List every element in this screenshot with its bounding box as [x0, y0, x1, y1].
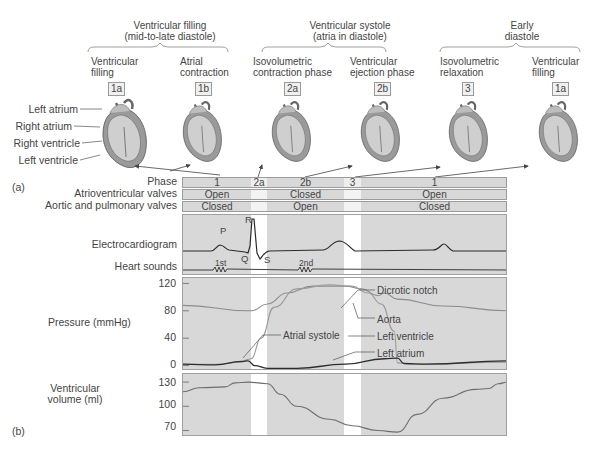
volume-chart — [183, 374, 507, 436]
phase-title-line: filling — [532, 67, 579, 78]
phase-title-line: contraction — [180, 67, 229, 78]
av-valves-bar: Open Closed Open — [182, 189, 507, 200]
phase-code-box: 3 — [462, 82, 474, 96]
heart-3 — [449, 102, 487, 161]
phase-title-2b: Ventricular ejection phase — [350, 56, 415, 78]
leader-left-ventricle — [80, 155, 100, 160]
av-valves-cell: Open — [361, 190, 508, 199]
phase-title-line: relaxation — [440, 67, 499, 78]
phase-bar: 1 2a 2b 3 1 — [182, 177, 507, 188]
phase-title-1b: Atrial contraction — [180, 56, 229, 78]
band-3 — [344, 278, 361, 370]
phase-title-2a: Isovolumetric contraction phase — [253, 56, 332, 78]
heart-sounds-label: Heart sounds — [0, 261, 177, 272]
part-label-b: (b) — [12, 426, 25, 437]
pressure-tick-label: 80 — [150, 305, 176, 316]
row-label-semilunar-valves: Aortic and pulmonary valves — [0, 200, 177, 211]
ecg-svg — [183, 215, 507, 275]
annotation-aorta: Aorta — [377, 314, 401, 325]
bracket-early-diastole — [440, 43, 580, 52]
phase-title-line: Ventricular — [532, 56, 579, 67]
volume-tick-label: 130 — [150, 377, 176, 388]
arrow-to-heart-1a — [135, 166, 220, 175]
pressure-tick-label: 120 — [150, 278, 176, 289]
heart-sound-second: 2nd — [299, 258, 313, 269]
ecg-wave-r: R — [245, 214, 252, 225]
phase-code-box: 2b — [374, 82, 391, 96]
phase-title-line: Isovolumetric — [253, 56, 332, 67]
arrow-to-heart-1a-end — [435, 166, 528, 177]
phase-title-line: Ventricular — [350, 56, 415, 67]
pressure-chart — [183, 278, 507, 370]
phase-title-line: Ventricular — [91, 56, 138, 67]
av-valves-cell: Closed — [267, 190, 344, 199]
annotation-atrial-systole: Atrial systole — [283, 330, 340, 341]
phase-code-box: 2a — [284, 82, 301, 96]
phase-title-1a-end: Ventricular filling — [532, 56, 579, 78]
phase-title-line: contraction phase — [253, 67, 332, 78]
band-3 — [344, 215, 361, 275]
group-brackets — [0, 0, 592, 60]
band-2a — [251, 190, 267, 199]
bracket-ventricular-filling — [88, 43, 228, 52]
leader-right-ventricle — [82, 141, 102, 143]
phase-cell: 2a — [251, 178, 267, 187]
phase-cell: 1 — [183, 178, 251, 187]
phase-title-line: Atrial — [180, 56, 229, 67]
phase-cell: 1 — [361, 178, 508, 187]
phase-title-1a: Ventricular filling — [91, 56, 138, 78]
pressure-panel: Atrial systole Dicrotic notch Aorta Left… — [182, 277, 507, 370]
phase-cell: 3 — [344, 178, 361, 187]
phase-title-line: filling — [91, 67, 138, 78]
volume-panel — [182, 373, 507, 436]
phase-title-line: Isovolumetric — [440, 56, 499, 67]
band-2a — [251, 215, 267, 275]
semilunar-valves-cell: Closed — [361, 202, 508, 211]
annotation-left-atrium: Left atrium — [377, 348, 424, 359]
volume-axis-title-text: Ventricular volume (ml) — [40, 383, 110, 405]
heart-sound-first: 1st — [215, 258, 226, 269]
ecg-label: Electrocardiogram — [0, 239, 177, 250]
heart-1b — [183, 102, 221, 161]
bracket-ventricular-systole — [262, 43, 386, 52]
phase-title-line: ejection phase — [350, 67, 415, 78]
av-valves-cell: Open — [183, 190, 251, 199]
arrow-to-heart-3 — [355, 167, 440, 177]
semilunar-valves-cell: Closed — [183, 202, 251, 211]
row-label-av-valves: Atrioventricular valves — [0, 188, 177, 199]
heart-2a — [272, 102, 310, 161]
leader-right-atrium — [74, 126, 100, 127]
semilunar-valves-cell: Open — [267, 202, 344, 211]
band-3 — [344, 190, 361, 199]
phase-title-3: Isovolumetric relaxation — [440, 56, 499, 78]
ecg-panel: P R Q S 1st 2nd — [182, 214, 507, 275]
heart-2b — [361, 102, 399, 161]
annotation-left-ventricle: Left ventricle — [377, 331, 434, 342]
ecg-wave-q: Q — [241, 253, 248, 264]
band-3 — [344, 202, 361, 211]
annotation-dicrotic-notch: Dicrotic notch — [377, 285, 438, 296]
semilunar-valves-bar: Closed Open Closed — [182, 201, 507, 212]
phase-code-box: 1a — [552, 82, 569, 96]
pressure-tick-label: 40 — [150, 332, 176, 343]
pressure-tick-label: 0 — [150, 359, 176, 370]
arrow-to-heart-2a — [258, 165, 262, 177]
phase-cell: 2b — [267, 178, 344, 187]
ecg-wave-s: S — [264, 254, 270, 265]
arrow-to-heart-2b — [305, 166, 352, 177]
volume-tick-label: 100 — [150, 399, 176, 410]
heart-illustrations — [0, 95, 592, 180]
band-2a — [251, 202, 267, 211]
heart-1a — [103, 100, 146, 167]
volume-tick-label: 70 — [150, 421, 176, 432]
arrow-to-heart-1b — [170, 165, 190, 171]
volume-axis-title: Ventricular volume (ml) — [40, 383, 110, 405]
ecg-wave-p: P — [220, 225, 226, 236]
phase-code-box: 1b — [195, 82, 212, 96]
row-label-phase: Phase — [0, 176, 177, 187]
phase-code-box: 1a — [108, 82, 125, 96]
pressure-axis-title: Pressure (mmHg) — [48, 317, 131, 328]
heart-1a-end — [539, 102, 577, 161]
